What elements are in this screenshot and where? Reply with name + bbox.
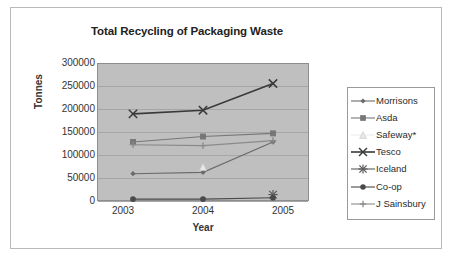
plot-area — [97, 63, 309, 201]
legend-label: Safeway* — [376, 130, 416, 140]
y-tick-label: 250000 — [41, 81, 95, 91]
data-point — [200, 142, 207, 149]
chart-card: Total Recycling of Packaging Waste Tonne… — [10, 7, 442, 249]
data-point — [360, 200, 366, 206]
y-tick-label: 150000 — [41, 127, 95, 137]
legend-label: Co-op — [376, 182, 402, 192]
data-point — [200, 196, 206, 202]
y-tick-label: 50000 — [41, 173, 95, 183]
data-point — [200, 134, 206, 140]
legend-item-morrisons[interactable]: Morrisons — [350, 92, 434, 109]
legend-label: Iceland — [376, 164, 407, 174]
y-tick-label: 200000 — [41, 104, 95, 114]
x-tick-label: 2005 — [253, 205, 313, 216]
legend-label: Tesco — [376, 147, 401, 157]
legend-item-jsainsbury[interactable]: J Sainsbury — [350, 195, 434, 212]
legend-marker-asda — [350, 111, 376, 125]
chart-legend: Morrisons Asda Safeway* Tesco Iceland Co… — [347, 87, 435, 220]
data-point — [269, 79, 277, 87]
data-point — [358, 165, 367, 174]
legend-item-iceland[interactable]: Iceland — [350, 161, 434, 178]
chart-title: Total Recycling of Packaging Waste — [11, 25, 363, 37]
legend-item-asda[interactable]: Asda — [350, 109, 434, 126]
legend-label: Morrisons — [376, 96, 418, 106]
x-axis-title: Year — [97, 222, 309, 233]
legend-item-coop[interactable]: Co-op — [350, 178, 434, 195]
data-point — [270, 195, 276, 201]
legend-item-tesco[interactable]: Tesco — [350, 144, 434, 161]
x-tick-label: 2003 — [93, 205, 153, 216]
legend-label: Asda — [376, 113, 398, 123]
legend-label: J Sainsbury — [376, 199, 426, 209]
legend-marker-coop — [350, 180, 376, 194]
x-tick-label: 2004 — [173, 205, 233, 216]
data-point — [270, 130, 276, 136]
data-point — [360, 115, 366, 121]
legend-marker-tesco — [350, 145, 376, 159]
legend-marker-iceland — [350, 162, 376, 176]
data-point — [199, 163, 206, 170]
data-point — [360, 98, 365, 103]
data-point — [360, 184, 366, 190]
data-point — [130, 171, 135, 176]
data-point — [130, 196, 136, 202]
y-tick-label: 300000 — [41, 58, 95, 68]
y-tick-label: 100000 — [41, 150, 95, 160]
series-layer — [98, 64, 308, 200]
legend-item-safeway[interactable]: Safeway* — [350, 126, 434, 143]
legend-marker-morrisons — [350, 94, 376, 108]
x-axis-ticks: 2003 2004 2005 — [97, 205, 309, 219]
legend-marker-safeway — [350, 128, 376, 142]
y-axis-ticks: 300000 250000 200000 150000 100000 50000… — [37, 63, 95, 201]
y-tick-label: 0 — [41, 196, 95, 206]
legend-marker-jsainsbury — [350, 197, 376, 211]
